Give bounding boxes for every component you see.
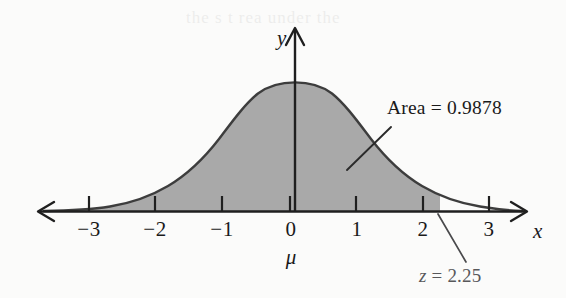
x-tick-label-neg2: −2: [143, 219, 166, 240]
z-annotation-label: z = 2.25: [419, 266, 481, 285]
y-axis-label: y: [277, 28, 286, 49]
x-axis-label: x: [533, 221, 542, 242]
mean-mu-label: μ: [286, 247, 297, 268]
z-annotation-variable: z: [419, 265, 427, 286]
x-tick-label-neg1: −1: [210, 219, 233, 240]
z-annotation-leader-line: [438, 214, 466, 262]
normal-distribution-figure: the s t rea under the: [0, 0, 566, 298]
x-tick-label-neg3: −3: [77, 219, 100, 240]
area-annotation-label: Area = 0.9878: [387, 98, 502, 118]
x-tick-label-3: 3: [484, 219, 495, 240]
z-annotation-value: = 2.25: [427, 265, 482, 286]
x-tick-label-1: 1: [352, 219, 363, 240]
x-tick-label-2: 2: [418, 219, 429, 240]
x-tick-label-0: 0: [286, 219, 297, 240]
